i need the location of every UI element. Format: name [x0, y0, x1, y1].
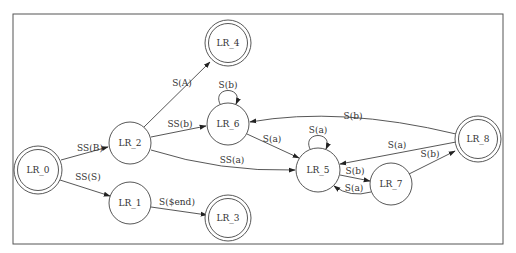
- edge-label: S(A): [172, 78, 192, 88]
- node-label: LR_8: [467, 134, 490, 145]
- node-label: LR_2: [119, 138, 142, 149]
- edge-label: S(b): [346, 166, 365, 176]
- edge-label: SS(a): [220, 155, 245, 165]
- node-lr-5: LR_5: [296, 148, 340, 192]
- nodes: LR_0 LR_1 LR_2 LR_3 LR_4 LR_5 LR_6: [14, 20, 501, 241]
- node-label: LR_0: [27, 165, 50, 176]
- node-lr-7: LR_7: [370, 163, 412, 205]
- lr-automaton-diagram: SS(B) SS(S) S(A) SS(b) SS(a) S($end) S(b…: [0, 0, 516, 253]
- diagram-frame: [13, 14, 503, 244]
- edge-label: S($end): [159, 197, 195, 207]
- node-label: LR_4: [217, 38, 240, 49]
- edge-lr0-lr1: [60, 180, 110, 196]
- node-lr-0: LR_0: [14, 146, 62, 194]
- edge-lr5-self: [309, 136, 328, 150]
- node-label: LR_7: [380, 179, 403, 190]
- edge-label: SS(S): [75, 172, 100, 182]
- edge-label: S(a): [345, 183, 364, 193]
- node-label: LR_1: [119, 198, 142, 209]
- edge-label: S(a): [309, 125, 328, 135]
- edge-label: S(b): [421, 149, 440, 159]
- node-lr-8: LR_8: [455, 116, 501, 162]
- edge-lr1-lr3: [151, 207, 207, 215]
- node-lr-4: LR_4: [205, 20, 251, 66]
- edge-label: S(b): [344, 111, 363, 121]
- node-lr-1: LR_1: [109, 182, 151, 224]
- node-lr-2: LR_2: [109, 122, 151, 164]
- node-label: LR_6: [217, 119, 240, 130]
- node-lr-3: LR_3: [205, 195, 251, 241]
- node-label: LR_3: [217, 213, 240, 224]
- node-label: LR_5: [307, 165, 330, 176]
- edge-label: S(a): [388, 140, 407, 150]
- edge-label: S(a): [263, 134, 282, 144]
- edge-lr2-lr4: [144, 62, 210, 127]
- edge-lr6-self: [219, 91, 238, 105]
- edge-label: SS(B): [77, 143, 103, 153]
- node-lr-6: LR_6: [207, 103, 249, 145]
- edge-label: S(b): [219, 80, 238, 90]
- edge-label: SS(b): [168, 119, 193, 129]
